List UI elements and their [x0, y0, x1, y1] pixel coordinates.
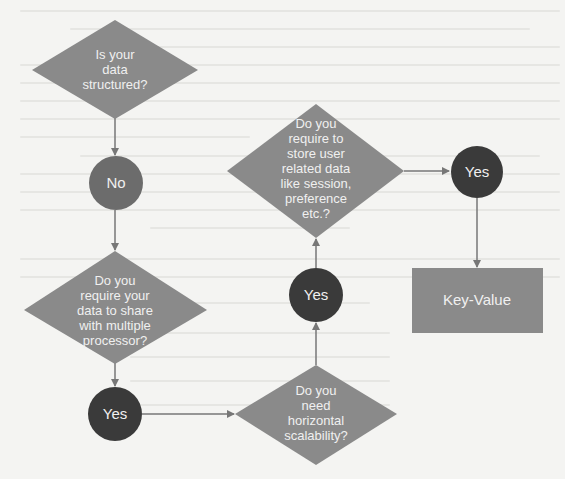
- q3-line-4: scalability?: [284, 428, 348, 443]
- no-label: No: [106, 174, 125, 191]
- answer-yes-share: Yes: [88, 387, 142, 441]
- q1-line-2: data: [102, 62, 128, 77]
- q2-line-4: with multiple: [78, 318, 151, 333]
- q2-line-5: processor?: [83, 333, 147, 348]
- decision-horizontal-scalability: Do you need horizontal scalability?: [235, 365, 397, 465]
- q4-line-7: etc.?: [302, 206, 330, 221]
- decision-share-with-multiple-processor: Do you require your data to share with m…: [24, 251, 207, 364]
- yes3-label: Yes: [465, 163, 489, 180]
- q1-line-3: structured?: [82, 77, 147, 92]
- q2-line-2: require your: [80, 288, 150, 303]
- q3-line-1: Do you: [295, 383, 336, 398]
- q1-line-1: Is your: [95, 47, 135, 62]
- decision-store-user-related-data: Do you require to store user related dat…: [227, 104, 404, 238]
- q3-line-2: need: [302, 398, 331, 413]
- q4-line-4: related data: [282, 161, 351, 176]
- q2-line-3: data to share: [77, 303, 153, 318]
- key-value-label: Key-Value: [443, 291, 511, 308]
- q4-line-2: require to: [289, 131, 344, 146]
- q3-line-3: horizontal: [288, 413, 344, 428]
- yes1-label: Yes: [103, 405, 127, 422]
- q2-line-1: Do you: [94, 273, 135, 288]
- flowchart: Is your data structured? No Do you requi…: [0, 0, 565, 479]
- answer-yes-store: Yes: [451, 146, 503, 198]
- decision-is-data-structured: Is your data structured?: [32, 20, 198, 119]
- answer-yes-scalability: Yes: [289, 268, 343, 322]
- answer-no: No: [89, 156, 143, 210]
- q4-line-6: preference: [285, 191, 347, 206]
- q4-line-5: like session,: [281, 176, 352, 191]
- q4-line-3: store user: [287, 146, 345, 161]
- result-key-value: Key-Value: [412, 268, 543, 333]
- q4-line-1: Do you: [295, 116, 336, 131]
- yes2-label: Yes: [304, 286, 328, 303]
